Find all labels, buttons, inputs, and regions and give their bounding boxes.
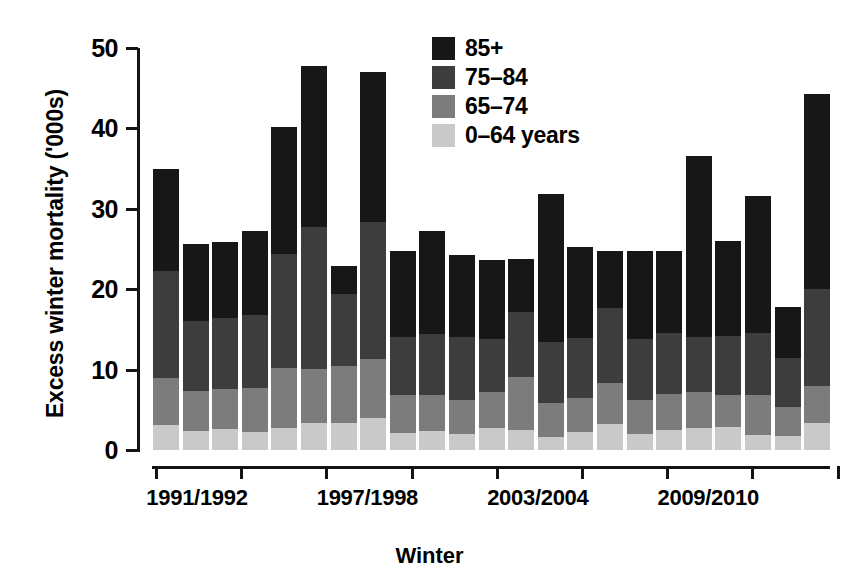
- bar-segment: [390, 395, 416, 434]
- legend-label: 65–74: [465, 93, 527, 120]
- bar-segment: [508, 377, 534, 430]
- bar-segment: [567, 338, 593, 397]
- bar-segment: [627, 400, 653, 434]
- bar-segment: [183, 391, 209, 430]
- bar-segment: [567, 247, 593, 339]
- bar-segment: [538, 403, 564, 438]
- bar-segment: [390, 433, 416, 450]
- bar: [538, 194, 564, 450]
- x-tick-0: [155, 466, 158, 479]
- bar-segment: [360, 418, 386, 450]
- bar-segment: [331, 294, 357, 366]
- bar-segment: [686, 337, 712, 392]
- bar-segment: [212, 242, 238, 318]
- bar-segment: [301, 66, 327, 227]
- bar-segment: [301, 423, 327, 450]
- bar-segment: [419, 334, 445, 394]
- bar-segment: [360, 72, 386, 222]
- x-tick-8: [837, 466, 840, 479]
- bar-segment: [508, 430, 534, 450]
- bar-segment: [804, 289, 830, 385]
- bar-segment: [390, 251, 416, 338]
- bar-segment: [479, 260, 505, 339]
- bar-segment: [538, 342, 564, 402]
- excess-winter-mortality-chart: Excess winter mortality ('000s) 01020304…: [0, 0, 859, 588]
- legend-swatch-icon: [432, 95, 455, 118]
- bar-segment: [775, 407, 801, 436]
- bar-segment: [449, 337, 475, 400]
- bar-segment: [686, 156, 712, 338]
- x-axis-title: Winter: [0, 543, 859, 569]
- bar-segment: [360, 359, 386, 418]
- bar-segment: [715, 336, 741, 395]
- x-tick-1: [240, 466, 243, 479]
- bar-segment: [242, 388, 268, 431]
- bar-segment: [271, 254, 297, 368]
- bar-segment: [242, 231, 268, 315]
- bar-segment: [153, 271, 179, 378]
- bar: [183, 244, 209, 450]
- bar-segment: [656, 430, 682, 450]
- bar-segment: [301, 369, 327, 424]
- bar: [271, 127, 297, 450]
- bar: [656, 251, 682, 450]
- bar: [567, 247, 593, 450]
- x-tick-3: [411, 466, 414, 479]
- bar: [745, 196, 771, 450]
- bar-segment: [271, 428, 297, 450]
- bar: [331, 266, 357, 450]
- bar-segment: [715, 241, 741, 336]
- x-tick-6: [666, 466, 669, 479]
- bar-segment: [627, 339, 653, 400]
- bar: [360, 72, 386, 450]
- bar-segment: [508, 312, 534, 377]
- bar-segment: [449, 400, 475, 434]
- bar-segment: [301, 227, 327, 369]
- bar-segment: [419, 231, 445, 335]
- bar-segment: [686, 392, 712, 427]
- bar: [449, 255, 475, 450]
- bar-segment: [508, 259, 534, 311]
- bar: [804, 94, 830, 450]
- legend-label: 75–84: [465, 64, 527, 91]
- bar-segment: [745, 395, 771, 434]
- x-tick-5: [581, 466, 584, 479]
- bar: [301, 66, 327, 450]
- x-tick-4: [496, 466, 499, 479]
- bar-segment: [242, 432, 268, 450]
- x-tick-7: [751, 466, 754, 479]
- bar-segment: [567, 432, 593, 450]
- legend-label: 0–64 years: [465, 122, 580, 149]
- bar: [153, 169, 179, 450]
- bar-segment: [419, 395, 445, 431]
- bar-segment: [271, 368, 297, 428]
- bar-segment: [567, 398, 593, 433]
- bar-segment: [153, 169, 179, 271]
- bar-segment: [775, 358, 801, 407]
- legend-swatch-icon: [432, 37, 455, 60]
- bar-segment: [242, 315, 268, 388]
- legend-swatch-icon: [432, 124, 455, 147]
- bar: [390, 251, 416, 450]
- x-tick-label-1: 1997/1998: [287, 485, 447, 511]
- bar-segment: [804, 423, 830, 450]
- legend-item: 75–84: [432, 63, 580, 92]
- bar: [479, 260, 505, 450]
- bar-segment: [775, 307, 801, 358]
- legend-item: 85+: [432, 34, 580, 63]
- bar-segment: [656, 333, 682, 393]
- bar-segment: [479, 339, 505, 392]
- bar: [627, 251, 653, 450]
- bar: [686, 156, 712, 450]
- bar: [597, 251, 623, 450]
- bar-segment: [212, 318, 238, 389]
- legend-item: 0–64 years: [432, 121, 580, 150]
- bar-segment: [597, 383, 623, 424]
- bar-segment: [775, 436, 801, 450]
- bar: [242, 231, 268, 450]
- legend-swatch-icon: [432, 66, 455, 89]
- bar-segment: [449, 434, 475, 450]
- bar-segment: [419, 431, 445, 450]
- bar-segment: [183, 321, 209, 392]
- bar-segment: [212, 429, 238, 450]
